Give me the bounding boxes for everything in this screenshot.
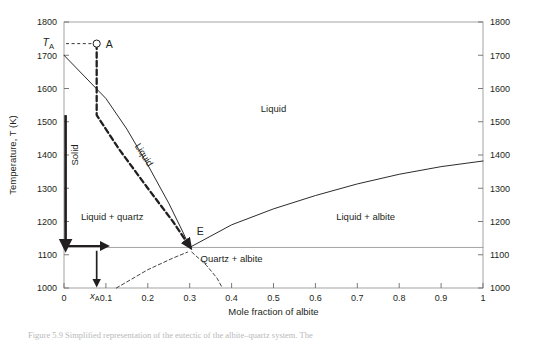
curve-solvus-left — [116, 252, 187, 288]
x-tick-label: 0.5 — [267, 293, 280, 303]
axes-group: 1000100011001100120012001300130014001400… — [7, 17, 510, 317]
y-tick-label-right: 1500 — [490, 117, 510, 127]
temperature-A-label: TA — [43, 36, 55, 51]
x-tick-label: 0 — [61, 293, 66, 303]
y-tick-label-left: 1400 — [37, 150, 57, 160]
phase-diagram-figure: 1000100011001100120012001300130014001400… — [0, 0, 540, 341]
y-tick-label-left: 1700 — [37, 51, 57, 61]
y-tick-label-right: 1100 — [490, 250, 509, 260]
composition-A-label: xA — [89, 290, 100, 303]
x-tick-label: 0.6 — [309, 293, 322, 303]
liquid-region-label: Liquid — [261, 103, 286, 114]
curve-albite-liquidus — [190, 161, 483, 247]
liquid-quartz-region-label: Liquid + quartz — [81, 211, 144, 222]
x-tick-label: 0.9 — [435, 293, 448, 303]
point-A-label: A — [106, 38, 113, 50]
y-tick-label-left: 1300 — [37, 184, 57, 194]
y-tick-label-left: 1500 — [37, 117, 57, 127]
x-tick-label: 0.3 — [183, 293, 196, 303]
y-tick-label-left: 1600 — [37, 84, 57, 94]
y-tick-label-left: 1100 — [38, 250, 57, 260]
y-axis-title: Temperature, T (K) — [7, 115, 18, 194]
curves-group — [64, 44, 483, 288]
solid-region-label: Solid — [69, 144, 80, 165]
x-axis-title: Mole fraction of albite — [228, 306, 318, 317]
plot-frame — [64, 22, 483, 288]
y-tick-label-left: 1200 — [37, 217, 57, 227]
y-tick-label-right: 1300 — [490, 184, 510, 194]
x-tick-label: 1 — [480, 293, 485, 303]
point-A-marker — [93, 40, 100, 47]
figure-caption: Figure 5.9 Simplified representation of … — [28, 330, 528, 340]
liquidus-curve-label: Liquid — [133, 141, 156, 168]
temperature-A-text: TA — [43, 36, 55, 51]
annotations-group: ATAxAELiquidLiquid + quartzLiquid + albi… — [43, 36, 396, 303]
y-tick-label-right: 1000 — [490, 283, 510, 293]
phase-diagram-svg: 1000100011001100120012001300130014001400… — [0, 0, 540, 341]
y-tick-label-right: 1600 — [490, 84, 510, 94]
eutectic-point-label: E — [197, 225, 204, 237]
x-tick-label: 0.1 — [100, 293, 113, 303]
liquid-albite-region-label: Liquid + albite — [336, 211, 395, 222]
y-tick-label-right: 1800 — [490, 17, 510, 27]
y-tick-label-right: 1200 — [490, 217, 510, 227]
y-tick-label-left: 1800 — [37, 17, 57, 27]
quartz-albite-region-label: Quartz + albite — [201, 253, 263, 264]
x-tick-label: 0.7 — [351, 293, 364, 303]
x-tick-label: 0.2 — [142, 293, 155, 303]
x-tick-label: 0.8 — [393, 293, 406, 303]
y-tick-label-left: 1000 — [37, 283, 57, 293]
x-tick-label: 0.4 — [225, 293, 238, 303]
y-tick-label-right: 1400 — [490, 150, 510, 160]
y-tick-label-right: 1700 — [490, 51, 510, 61]
